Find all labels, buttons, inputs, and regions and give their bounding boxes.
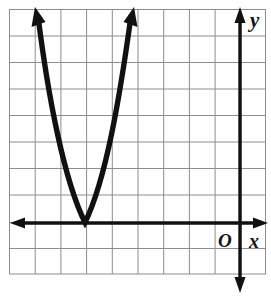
coordinate-plane-svg: y x O [0, 0, 271, 298]
y-axis [235, 7, 246, 293]
y-axis-down-arrowhead [235, 277, 246, 293]
origin-label: O [218, 230, 232, 251]
x-axis-label: x [248, 230, 259, 252]
parabola-curve [32, 7, 138, 223]
y-axis-label: y [247, 8, 260, 32]
x-axis [10, 218, 268, 229]
x-axis-left-arrowhead [10, 218, 25, 229]
graph-figure: y x O [0, 0, 271, 298]
